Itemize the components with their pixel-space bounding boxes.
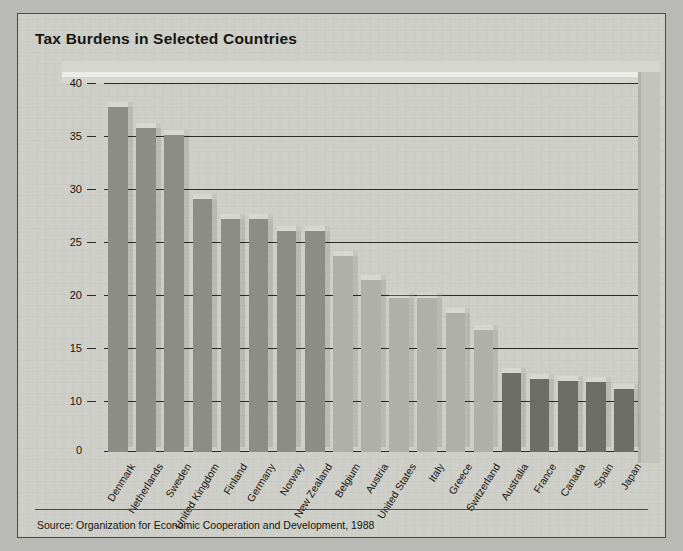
bar-side-face: [212, 194, 217, 447]
bar-top-face: [305, 226, 330, 231]
bar-germany[interactable]: [249, 219, 269, 452]
bar-norway[interactable]: [277, 231, 297, 452]
y-axis-tick-label: 15: [70, 342, 82, 354]
y-axis-tick-label: 20: [70, 289, 82, 301]
bar-side-face: [578, 376, 583, 447]
bar-canada[interactable]: [558, 381, 578, 452]
bar-spain[interactable]: [586, 382, 606, 452]
y-tick-35: [87, 136, 96, 137]
bar-italy[interactable]: [417, 298, 437, 452]
bar-denmark[interactable]: [108, 107, 128, 452]
bar-side-face: [381, 275, 386, 447]
y-axis-tick-label: 40: [70, 77, 82, 89]
bar-japan[interactable]: [614, 389, 634, 452]
bar-top-face: [164, 130, 189, 135]
bar-finland[interactable]: [221, 219, 241, 452]
bar-side-face: [128, 102, 133, 447]
bar-top-face: [417, 293, 442, 298]
chart-figure: Tax Burdens in Selected Countries Income…: [17, 13, 666, 538]
bar-top-face: [221, 214, 246, 219]
x-axis-tick-label: Australia: [499, 461, 531, 502]
y-axis-tick-label: 0: [76, 444, 82, 456]
x-axis-tick-label: Italy: [426, 461, 446, 484]
bar-top-face: [249, 214, 274, 219]
y-tick-30: [87, 189, 96, 190]
bar-side-face: [493, 325, 498, 447]
bar-sweden[interactable]: [164, 135, 184, 452]
x-axis-tick-label: Japan: [618, 461, 643, 492]
x-axis-tick-label: France: [531, 461, 558, 495]
bar-side-face: [549, 374, 554, 447]
bar-side-face: [268, 214, 273, 447]
bar-greece[interactable]: [446, 313, 466, 452]
bar-side-face: [437, 293, 442, 447]
page-title: Tax Burdens in Selected Countries: [35, 30, 297, 48]
x-axis-tick-label: Germany: [245, 461, 278, 504]
source-note: Source: Organization for Economic Cooper…: [37, 519, 374, 531]
bar-side-face: [521, 368, 526, 448]
bar-australia[interactable]: [502, 373, 522, 453]
bar-top-face: [389, 293, 414, 298]
bar-top-face: [502, 368, 527, 373]
bar-top-face: [333, 251, 358, 256]
bar-top-face: [614, 384, 639, 389]
x-axis-tick-label: Norway: [277, 461, 306, 498]
source-divider: [35, 509, 648, 510]
x-axis-tick-label: Canada: [557, 461, 587, 499]
bar-side-face: [606, 377, 611, 447]
x-axis-tick-label: Belgium: [332, 461, 362, 500]
plot-area: [104, 83, 638, 452]
bar-side-face: [184, 130, 189, 447]
bar-switzerland[interactable]: [474, 330, 494, 452]
bar-top-face: [193, 194, 218, 199]
bar-belgium[interactable]: [333, 256, 353, 452]
bar-netherlands[interactable]: [136, 128, 156, 453]
y-axis-tick-label: 35: [70, 130, 82, 142]
bar-new-zealand[interactable]: [305, 231, 325, 452]
bar-united-kingdom[interactable]: [193, 199, 213, 452]
bar-top-face: [277, 226, 302, 231]
bar-top-face: [446, 308, 471, 313]
x-axis-tick-label: Greece: [446, 461, 474, 497]
bar-top-face: [474, 325, 499, 330]
gridline-40: [104, 83, 638, 84]
bar-top-face: [361, 275, 386, 280]
slab-highlight: [62, 72, 648, 77]
y-tick-40: [87, 83, 96, 84]
bar-top-face: [136, 123, 161, 128]
bar-side-face: [240, 214, 245, 447]
x-axis-tick-label: Spain: [590, 461, 614, 490]
y-axis-labels: 403530252015100: [62, 83, 96, 452]
bar-top-face: [586, 377, 611, 382]
x-axis-tick-label: Austria: [363, 461, 390, 495]
bar-top-face: [108, 102, 133, 107]
bar-side-face: [409, 293, 414, 447]
bar-side-face: [296, 226, 301, 447]
x-axis-labels: DenmarkNetherlandsSwedenUnited KingdomFi…: [104, 457, 638, 527]
bar-austria[interactable]: [361, 280, 381, 452]
x-axis-tick-label: Finland: [221, 461, 249, 497]
y-tick-10: [87, 401, 96, 402]
y-axis-tick-label: 25: [70, 236, 82, 248]
y-tick-15: [87, 348, 96, 349]
bar-side-face: [156, 123, 161, 448]
y-axis-tick-label: 30: [70, 183, 82, 195]
bar-side-face: [465, 308, 470, 447]
plot-right-slab: [638, 72, 660, 463]
plot-top-slab: [62, 61, 660, 83]
y-axis-tick-label: 10: [70, 395, 82, 407]
bar-side-face: [325, 226, 330, 447]
bar-top-face: [530, 374, 555, 379]
bar-united-states[interactable]: [389, 298, 409, 452]
y-tick-25: [87, 242, 96, 243]
x-axis-tick-label: Sweden: [163, 461, 193, 500]
bar-top-face: [558, 376, 583, 381]
bar-side-face: [634, 384, 639, 447]
bar-side-face: [353, 251, 358, 447]
bar-france[interactable]: [530, 379, 550, 452]
y-tick-20: [87, 295, 96, 296]
